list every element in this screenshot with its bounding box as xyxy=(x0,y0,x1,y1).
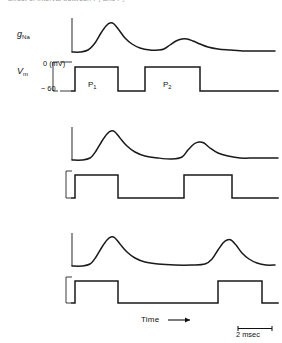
voltage-tick-minus-sixty: − 60 xyxy=(41,85,56,92)
conductance-axis-label: gNa xyxy=(17,30,30,40)
pulse-label-p1: P1 xyxy=(88,81,97,91)
time-axis-arrow-icon xyxy=(168,318,190,323)
voltage-axis-label: Vm xyxy=(17,67,28,77)
panel-1-gna-trace xyxy=(72,23,275,52)
pulse-label-p2: P2 xyxy=(163,81,172,91)
figure-root: Effect of interval between P₁ and P₂ xyxy=(0,0,282,343)
panel-2-gna-trace xyxy=(72,131,278,160)
panel-3-voltage-bracket xyxy=(66,277,72,303)
panel-2-voltage-bracket xyxy=(66,171,72,198)
conductance-subscript: Na xyxy=(22,34,30,40)
voltage-subscript: m xyxy=(23,71,28,77)
scale-bar-label: 2 msec xyxy=(236,331,260,338)
figure-canvas xyxy=(0,0,282,343)
time-axis-label: Time xyxy=(141,316,159,324)
panel-3-gna-trace xyxy=(72,237,275,266)
voltage-tick-zero: 0 (mV) xyxy=(43,60,65,67)
panel-1-vm-trace xyxy=(72,67,278,91)
panel-3-vm-trace xyxy=(72,281,278,303)
panel-3 xyxy=(66,233,278,303)
panel-2-vm-trace xyxy=(72,175,278,198)
panel-2 xyxy=(66,127,278,198)
